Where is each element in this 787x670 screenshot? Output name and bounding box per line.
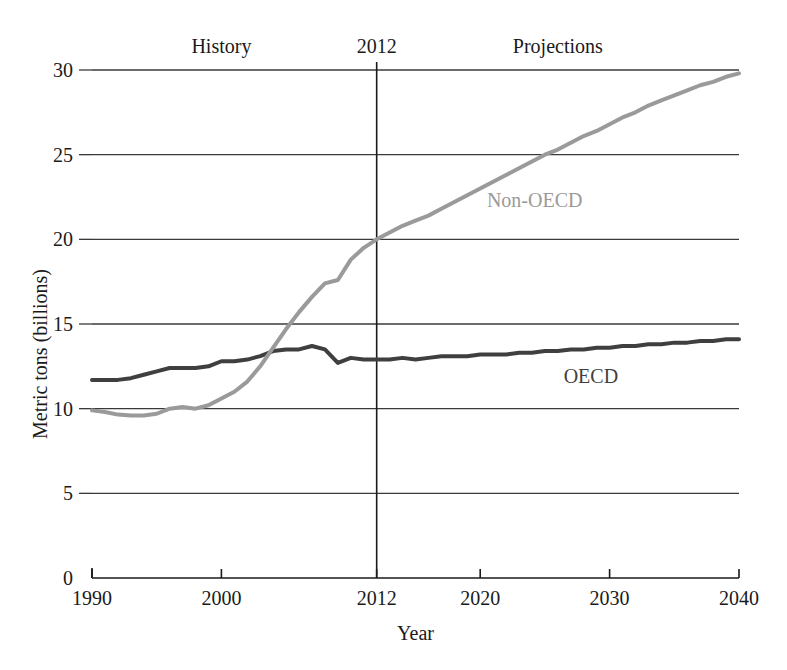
x-axis-title: Year xyxy=(316,623,516,643)
divider-year-label: 2012 xyxy=(297,36,457,56)
x-axis-tick-label: 2000 xyxy=(176,588,266,608)
y-axis-title: Metric tons (billions) xyxy=(30,269,50,439)
emissions-line-chart xyxy=(0,0,787,670)
series-label-non-oecd: Non-OECD xyxy=(487,190,583,210)
history-region-label: History xyxy=(141,36,301,56)
x-axis-tick-label: 2020 xyxy=(435,588,525,608)
x-axis-tick-label: 2030 xyxy=(565,588,655,608)
series-line-oecd xyxy=(92,339,739,380)
x-axis-tick-label: 2012 xyxy=(332,588,422,608)
y-axis-tick-label: 20 xyxy=(27,229,73,249)
projections-region-label: Projections xyxy=(458,36,658,56)
y-axis-tick-label: 5 xyxy=(27,483,73,503)
y-axis-tick-label: 30 xyxy=(27,60,73,80)
chart-figure: 0 5 10 15 20 25 30 1990 2000 2012 2020 2… xyxy=(0,0,787,670)
series-label-oecd: OECD xyxy=(564,366,618,386)
x-axis-tick-label: 1990 xyxy=(47,588,137,608)
series-line-non-oecd xyxy=(92,73,739,415)
y-axis-tick-label: 0 xyxy=(27,568,73,588)
x-axis-tick-label: 2040 xyxy=(694,588,784,608)
y-axis-tick-label: 25 xyxy=(27,145,73,165)
